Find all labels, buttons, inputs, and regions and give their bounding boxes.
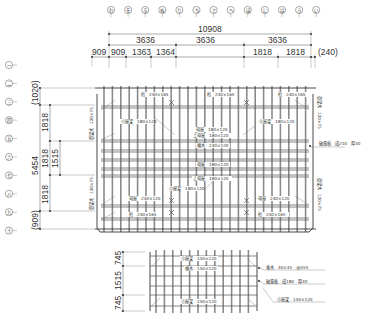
top-dimension-texts: 10908 3636 3636 3636 909 909 1363 1364 1…	[92, 24, 338, 57]
dim-span-2: 3636	[196, 35, 215, 45]
dim-sub-3: 1363	[132, 47, 151, 57]
grid-marker-top: ほ	[244, 6, 251, 17]
grid-marker-top: ろ	[296, 6, 303, 17]
label-koyabari-left: 小屋梁 180×120	[121, 118, 157, 125]
dim-top-offset: (1020)	[30, 80, 40, 105]
label-keta-top-far-right: 桁 240×165	[278, 91, 306, 98]
dim-depth-3: 1818	[40, 185, 50, 204]
grid-marker-label: を	[126, 7, 130, 13]
grid-marker-left: 九	[5, 209, 17, 216]
label-agemoya-2: 上母屋 180×120	[193, 175, 229, 182]
grid-marker-top: を	[125, 6, 132, 17]
label-keta-bottom-right: 桁 240×165	[258, 211, 286, 218]
dim-sub-1: 909	[92, 47, 106, 57]
main-plan: 桁 240×165 桁 240×165 桁 240×165 小屋梁 180×12…	[88, 86, 361, 232]
label-koyabari-center: 小屋梁 180×120	[169, 185, 205, 192]
grid-marker-label: る	[143, 8, 147, 13]
section-detail: 745 1515 745 小屋梁 150×120 棟木 150×120 小屋梁 …	[113, 250, 325, 313]
label-munagi: 棟木 240×120	[197, 142, 229, 149]
dim-bottom-offset: (909)	[30, 210, 40, 230]
sec-label-hafuita: 破風板 成180 厚30	[266, 278, 308, 285]
label-tokobari-left-top: 登梁木 120×75	[88, 107, 95, 140]
label-hafuita: 破風板 成210 厚30	[319, 140, 361, 147]
grid-marker-top: る	[142, 6, 149, 17]
sec-label-koyabari-bottom: 小屋梁 150×120	[181, 298, 217, 305]
dim-sub-7: (240)	[318, 47, 338, 57]
grid-marker-left: 七	[5, 172, 17, 179]
grid-marker-left: 八	[5, 190, 17, 197]
grid-marker-top: ぬ	[159, 6, 166, 17]
grid-marker-top: に	[261, 6, 268, 17]
sec-label-koyabari-top: 小屋梁 150×120	[181, 255, 217, 262]
label-tokobari-right-bottom: 登梁木 120×75	[316, 178, 323, 211]
sec-label-koyabari-note: 小屋梁 150×120	[277, 296, 313, 303]
sec-dim-top: 745	[113, 251, 123, 265]
grid-marker-left: 三	[5, 98, 17, 105]
grid-marker-left: 六	[5, 153, 17, 160]
dim-overall-depth: 5454	[30, 156, 40, 175]
label-moya-bottom-left: 母屋 240×120	[129, 196, 161, 202]
label-moya-bottom-right: 母屋 240×120	[258, 196, 290, 202]
dim-depth-2: 1818	[40, 149, 50, 168]
sec-dim-middle: 1515	[113, 271, 123, 290]
label-keta-top-left: 桁 240×165	[141, 91, 169, 98]
grid-marker-left: 五	[5, 135, 17, 142]
dim-span-1: 3636	[136, 35, 155, 45]
top-grid-markers: わをるぬりちとへほにはろい	[107, 6, 319, 17]
roof-framing-drawing: わをるぬりちとへほにはろい 一二三四五六七八九十 10908 3636 3636…	[0, 0, 372, 316]
dim-inner: 1515	[50, 149, 60, 168]
sec-label-munagi: 棟木 150×120	[185, 265, 217, 272]
grid-marker-top: ち	[193, 6, 200, 17]
grid-marker-top: り	[176, 6, 183, 17]
grid-marker-top: は	[278, 6, 285, 17]
dim-sub-6: 1818	[286, 47, 305, 57]
label-keta-top-right: 桁 240×165	[207, 91, 235, 98]
grid-marker-left: 二	[5, 80, 17, 87]
grid-marker-left: 四	[5, 117, 17, 124]
sec-label-taruki: 垂木 40×45 @455	[266, 264, 309, 271]
grid-marker-top: わ	[107, 6, 114, 17]
label-keta-bottom-left: 桁 240×165	[129, 211, 157, 218]
sec-dim-bottom: 745	[113, 296, 123, 310]
grid-marker-label: と	[212, 8, 216, 13]
dim-sub-4: 1364	[156, 47, 175, 57]
label-tokobari-right-top: 登梁木 120×75	[316, 96, 323, 129]
dim-sub-5: 1818	[253, 47, 272, 57]
grid-marker-top: と	[210, 6, 217, 17]
label-agemoya-1: 上母屋 180×120	[193, 132, 229, 139]
grid-marker-top: い	[313, 6, 320, 17]
dim-overall-width: 10908	[198, 24, 222, 34]
label-koyabari-right: 小屋梁 180×120	[259, 118, 295, 125]
dim-sub-2: 909	[111, 47, 125, 57]
left-grid-markers: 一二三四五六七八九十	[5, 61, 17, 234]
dim-span-3: 3636	[268, 35, 287, 45]
grid-marker-left: 一	[5, 61, 17, 68]
dim-depth-1: 1818	[40, 113, 50, 132]
left-dimension-texts: (1020) 5454 1818 1818 1818 1515 (909)	[30, 80, 60, 230]
grid-marker-top: へ	[227, 6, 234, 17]
label-tokobari-left-bottom: 登梁木 120×75	[88, 177, 95, 210]
grid-marker-left: 十	[5, 227, 17, 234]
